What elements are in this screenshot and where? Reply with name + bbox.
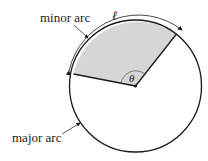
angle-label: θ bbox=[129, 72, 135, 84]
minor-arc-pointer bbox=[74, 25, 88, 38]
major-arc-pointer bbox=[62, 123, 80, 134]
minor-arc-label: minor arc bbox=[40, 10, 90, 25]
arc-length-label: ℓ bbox=[112, 8, 118, 23]
circle-sector-diagram: minor arc major arc ℓ θ bbox=[0, 0, 208, 161]
major-arc-label: major arc bbox=[12, 130, 62, 145]
center-point bbox=[134, 84, 137, 87]
